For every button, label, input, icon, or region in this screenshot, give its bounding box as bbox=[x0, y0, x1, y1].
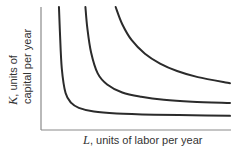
y-axis-label-line1: , units of bbox=[7, 54, 19, 97]
x-axis-variable: L bbox=[82, 133, 90, 147]
x-axis-label-text: , units of labor per year bbox=[90, 134, 203, 146]
x-axis-label: L, units of labor per year bbox=[82, 133, 203, 147]
isoquant-chart: K, units of capital per year L, units of… bbox=[0, 0, 244, 148]
isoquant-3 bbox=[116, 7, 230, 83]
svg-text:K, units of: K, units of bbox=[6, 54, 20, 106]
y-axis-label-line2: capital per year bbox=[21, 28, 33, 104]
y-axis-label: K, units of capital per year bbox=[6, 28, 33, 106]
isoquant-1 bbox=[59, 7, 230, 116]
isoquant-2 bbox=[85, 7, 230, 103]
isoquant-curves bbox=[59, 7, 230, 116]
